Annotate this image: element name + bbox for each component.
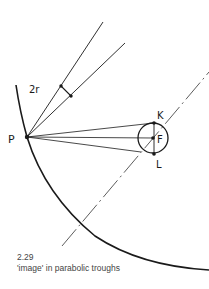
ray-p-to-l [27,137,141,152]
parabola-curve [16,85,209,270]
incident-ray-inner [27,43,125,137]
label-f: F [157,134,163,145]
label-l: L [156,159,162,170]
point-k [152,121,156,125]
optical-axis [62,72,209,246]
point-l [152,152,156,156]
parabolic-trough-diagram: P K F L 2r [0,0,209,289]
angle-marker [61,86,71,96]
ray-p-to-f [27,137,153,138]
angle-marker-dot-inner [69,94,72,97]
figure-caption: 'image' in parabolic troughs [17,264,120,273]
incident-ray-outer [27,22,103,137]
ray-p-to-k [27,123,154,137]
label-k: K [157,110,164,121]
point-f [151,136,155,140]
label-p: P [8,133,15,146]
figure-number: 2.29 [17,253,34,262]
angle-marker-dot-outer [59,84,62,87]
point-p [25,135,29,139]
label-2r: 2r [29,84,40,95]
